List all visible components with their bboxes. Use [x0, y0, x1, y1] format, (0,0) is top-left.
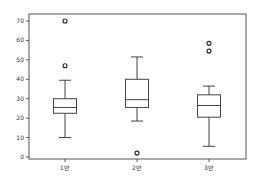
- boxes: [54, 19, 221, 155]
- y-tick-label: 70: [16, 17, 24, 24]
- iqr-box: [126, 79, 149, 107]
- outlier-point: [207, 49, 211, 53]
- box-plot: 010203040506070 1반2반3반: [0, 0, 259, 182]
- iqr-box: [54, 99, 77, 114]
- y-tick-label: 40: [16, 75, 24, 82]
- y-tick-label: 30: [16, 95, 24, 102]
- y-tick-label: 20: [16, 114, 24, 121]
- box-2: [126, 57, 149, 155]
- y-axis: 010203040506070: [16, 17, 29, 160]
- x-axis: 1반2반3반: [60, 159, 214, 171]
- outlier-point: [207, 41, 211, 45]
- y-tick-label: 50: [16, 56, 24, 63]
- x-tick-label: 1반: [60, 164, 70, 171]
- outlier-point: [135, 151, 139, 155]
- outlier-point: [63, 19, 67, 23]
- x-tick-label: 3반: [204, 164, 214, 171]
- y-tick-label: 60: [16, 36, 24, 43]
- box-3: [198, 41, 221, 146]
- y-tick-label: 10: [16, 134, 24, 141]
- outlier-point: [63, 64, 67, 68]
- x-tick-label: 2반: [132, 164, 142, 171]
- box-1: [54, 19, 77, 138]
- y-tick-label: 0: [20, 153, 24, 160]
